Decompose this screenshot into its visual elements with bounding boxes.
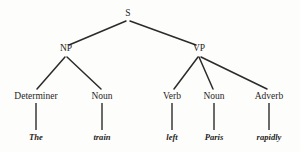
leaf-word-train: train [93,132,110,142]
edge-s-np [69,21,126,45]
syntax-tree-diagram: S NP VP Determiner Noun Verb Noun Adverb… [0,0,300,152]
node-label-np: NP [60,43,72,53]
edge-s-vp [130,21,196,45]
leaf-word-rapidly: rapidly [257,132,282,142]
tree-canvas: S NP VP Determiner Noun Verb Noun Adverb… [0,0,300,152]
node-label-verb: Verb [163,91,181,101]
node-label-determiner: Determiner [14,91,58,101]
tree-stems-group [36,103,269,130]
node-label-noun-subject: Noun [91,91,112,101]
edge-np-determiner [37,57,65,89]
node-label-s: S [125,8,130,18]
edge-np-noun [67,57,101,89]
tree-edges-group [37,21,267,89]
node-label-noun-object: Noun [203,91,224,101]
leaf-word-left: left [166,132,178,142]
node-label-adverb: Adverb [255,91,284,101]
leaf-word-the: The [29,132,43,142]
leaf-word-paris: Paris [205,132,224,142]
node-label-vp: VP [193,43,205,53]
edge-vp-verb [174,57,198,89]
